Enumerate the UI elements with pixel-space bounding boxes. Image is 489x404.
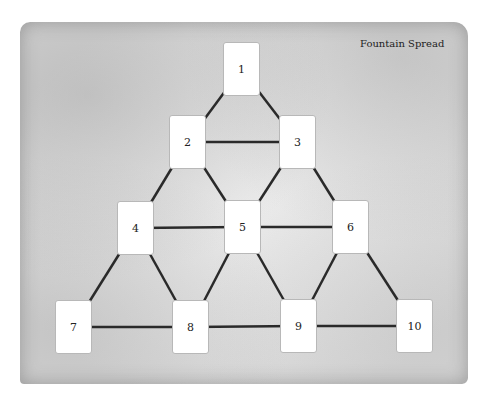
card-position-4[interactable]: 4	[117, 201, 154, 255]
card-position-6[interactable]: 6	[332, 200, 369, 254]
card-label: 5	[239, 221, 246, 234]
card-position-1[interactable]: 1	[223, 42, 260, 96]
card-position-8[interactable]: 8	[172, 300, 209, 354]
card-position-9[interactable]: 9	[280, 299, 317, 353]
card-position-10[interactable]: 10	[396, 299, 433, 353]
card-position-7[interactable]: 7	[55, 300, 92, 354]
card-label: 1	[238, 63, 245, 76]
card-label: 6	[347, 221, 354, 234]
card-position-2[interactable]: 2	[169, 115, 206, 169]
card-label: 10	[408, 320, 422, 333]
card-position-5[interactable]: 5	[224, 200, 261, 254]
card-label: 4	[132, 222, 139, 235]
card-label: 2	[184, 136, 191, 149]
card-label: 8	[187, 321, 194, 334]
card-label: 7	[70, 321, 77, 334]
card-label: 3	[294, 136, 301, 149]
card-label: 9	[295, 320, 302, 333]
card-position-3[interactable]: 3	[279, 115, 316, 169]
